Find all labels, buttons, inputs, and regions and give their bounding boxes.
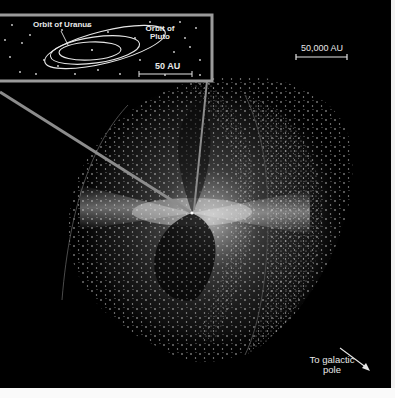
page-margin-bottom (0, 388, 395, 398)
inset-panel (0, 15, 212, 81)
pluto-orbit-label-line2: Pluto (143, 33, 177, 41)
page-margin-right (391, 0, 395, 398)
main-scale-bar (296, 54, 347, 60)
uranus-orbit-label: Orbit of Uranus (33, 21, 92, 29)
main-scale-label: 50,000 AU (301, 44, 343, 53)
pluto-orbit-label: Orbit of Pluto (143, 25, 177, 42)
inset-scale-label: 50 AU (155, 62, 180, 71)
oort-cloud-diagram: Orbit of Uranus Orbit of Pluto 50 AU 50,… (0, 0, 391, 388)
diagram-graphics (0, 0, 391, 388)
galactic-pole-label-line2: pole (305, 365, 359, 375)
sun-marker (190, 211, 193, 214)
galactic-pole-label: To galactic pole (305, 355, 359, 375)
